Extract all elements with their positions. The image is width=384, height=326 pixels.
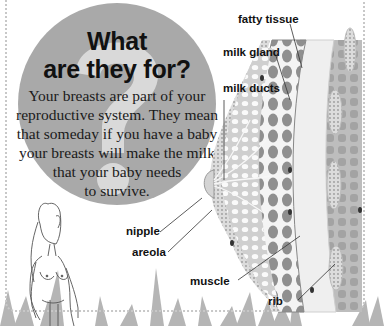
label-milk-ducts: milk ducts [223,82,280,94]
label-muscle: muscle [190,275,230,287]
label-nipple: nipple [126,225,160,237]
page: What are they for? Your breasts are part… [0,0,384,326]
label-milk-gland: milk gland [223,46,280,58]
label-fatty-tissue: fatty tissue [238,13,299,25]
label-rib: rib [268,295,283,307]
label-areola: areola [132,246,166,258]
